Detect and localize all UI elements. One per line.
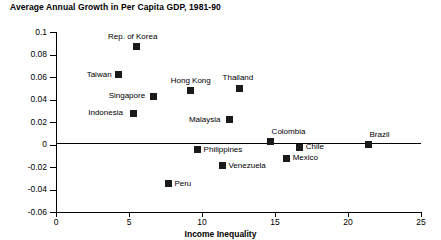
data-point-marker bbox=[130, 110, 137, 117]
data-point-label: Singapore bbox=[109, 92, 145, 100]
data-point-marker bbox=[283, 155, 290, 162]
data-point-label: Philippines bbox=[204, 146, 243, 154]
data-point-marker bbox=[267, 138, 274, 145]
y-tick-mark bbox=[50, 100, 56, 101]
data-point-label: Venezuela bbox=[228, 162, 265, 170]
y-tick-label: 0.1 bbox=[35, 28, 47, 37]
data-point-marker bbox=[165, 180, 172, 187]
data-point-label: Colombia bbox=[272, 128, 306, 136]
y-tick-label: 0.04 bbox=[30, 95, 47, 104]
y-tick-mark bbox=[50, 55, 56, 56]
y-tick-label-wrap: 0.04 bbox=[0, 95, 47, 104]
y-tick-label: 0.06 bbox=[30, 73, 47, 82]
data-point-marker bbox=[150, 93, 157, 100]
data-point-label: Indonesia bbox=[88, 109, 123, 117]
x-tick-label: 10 bbox=[187, 218, 217, 227]
y-tick-mark bbox=[50, 77, 56, 78]
y-tick-label: -0.04 bbox=[28, 185, 47, 194]
data-point-label: Hong Kong bbox=[171, 77, 211, 85]
data-point-label: Mexico bbox=[293, 154, 318, 162]
scatter-plot-figure: Average Annual Growth in Per Capita GDP,… bbox=[0, 0, 441, 240]
data-point-label: Brazil bbox=[369, 131, 389, 139]
data-point-marker bbox=[226, 116, 233, 123]
data-point-label: Peru bbox=[174, 180, 191, 188]
y-tick-label: 0.08 bbox=[30, 50, 47, 59]
y-tick-label: -0.06 bbox=[28, 208, 47, 217]
x-tick-label: 5 bbox=[114, 218, 144, 227]
y-tick-label: -0.02 bbox=[28, 163, 47, 172]
y-tick-label-wrap: -0.04 bbox=[0, 185, 47, 194]
data-point-label: Taiwan bbox=[87, 71, 112, 79]
data-point-label: Malaysia bbox=[189, 116, 221, 124]
y-tick-mark bbox=[50, 32, 56, 33]
y-tick-mark bbox=[50, 122, 56, 123]
y-tick-label-wrap: 0.06 bbox=[0, 73, 47, 82]
y-tick-label-wrap: -0.06 bbox=[0, 208, 47, 217]
data-point-label: Rep. of Korea bbox=[108, 33, 157, 41]
y-tick-label-wrap: -0.02 bbox=[0, 163, 47, 172]
y-tick-label: 0 bbox=[42, 140, 47, 149]
x-tick-label: 20 bbox=[333, 218, 363, 227]
y-axis-spine bbox=[56, 32, 57, 212]
y-tick-label-wrap: 0 bbox=[0, 140, 47, 149]
x-axis-title: Income Inequality bbox=[0, 229, 441, 239]
data-point-marker bbox=[236, 85, 243, 92]
x-tick-label: 25 bbox=[406, 218, 436, 227]
data-point-marker bbox=[365, 141, 372, 148]
data-point-marker bbox=[115, 71, 122, 78]
x-tick-label: 0 bbox=[41, 218, 71, 227]
y-tick-label-wrap: 0.1 bbox=[0, 28, 47, 37]
data-point-label: Chile bbox=[306, 143, 324, 151]
x-axis-spine bbox=[56, 212, 421, 213]
page-title: Average Annual Growth in Per Capita GDP,… bbox=[10, 2, 221, 12]
y-tick-label-wrap: 0.02 bbox=[0, 118, 47, 127]
data-point-marker bbox=[296, 144, 303, 151]
y-tick-label-wrap: 0.08 bbox=[0, 50, 47, 59]
y-tick-mark bbox=[50, 190, 56, 191]
y-tick-mark bbox=[50, 167, 56, 168]
y-tick-mark bbox=[50, 145, 56, 146]
data-point-label: Thailand bbox=[223, 74, 254, 82]
data-point-marker bbox=[187, 87, 194, 94]
data-point-marker bbox=[219, 162, 226, 169]
data-point-marker bbox=[194, 146, 201, 153]
x-tick-label: 15 bbox=[260, 218, 290, 227]
y-tick-label: 0.02 bbox=[30, 118, 47, 127]
data-point-marker bbox=[133, 43, 140, 50]
